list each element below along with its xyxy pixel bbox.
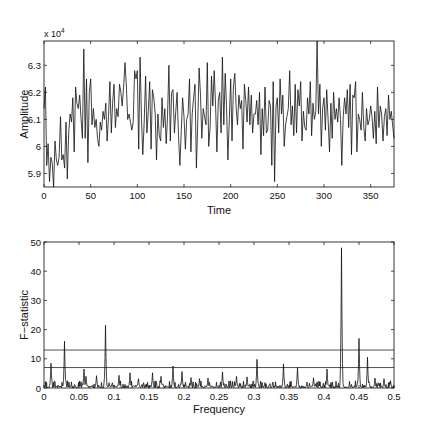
amplitude-line: [44, 41, 394, 187]
x-tick-label: 0.2: [177, 391, 190, 402]
bottom-x-axis-label: Frequency: [193, 403, 245, 415]
bottom-y-axis-label: F−statistic: [18, 290, 30, 340]
x-tick-label: 0: [41, 391, 46, 402]
x-tick-label: 350: [363, 190, 379, 201]
threshold-lines: [44, 350, 394, 368]
x-tick-label: 150: [176, 190, 192, 201]
x-tick-label: 0.1: [107, 391, 120, 402]
x-tick-label: 50: [85, 190, 96, 201]
amplitude-series: [44, 41, 394, 187]
x-tick-label: 0: [41, 190, 46, 201]
x-tick-label: 0.15: [140, 391, 159, 402]
f-statistic-line: [44, 248, 394, 388]
x-tick-label: 0.3: [247, 391, 260, 402]
y-tick-label: 6.3: [28, 60, 41, 71]
x-tick-label: 100: [129, 190, 145, 201]
x-tick-label: 0.05: [70, 391, 89, 402]
y-tick-label: 5.9: [28, 168, 41, 179]
y-tick-label: 10: [30, 353, 41, 364]
y-tick-label: 50: [30, 237, 41, 248]
chart-canvas: 0501001502002503003505.966.16.26.3 x 104…: [0, 0, 421, 428]
x-tick-label: 0.35: [280, 391, 299, 402]
time-series-plot: 0501001502002503003505.966.16.26.3 x 104…: [18, 27, 394, 216]
x-tick-label: 0.5: [387, 391, 400, 402]
x-tick-label: 0.25: [210, 391, 229, 402]
y-tick-label: 40: [30, 266, 41, 277]
x-tick-label: 250: [269, 190, 285, 201]
x-tick-label: 200: [223, 190, 239, 201]
f-statistic-series: [44, 248, 394, 388]
y-tick-label: 6: [36, 141, 41, 152]
y-tick-label: 0: [36, 383, 41, 394]
x-tick-label: 0.4: [317, 391, 330, 402]
y-tick-label: 30: [30, 295, 41, 306]
f-statistic-plot: 00.050.10.150.20.250.30.350.40.450.50102…: [18, 237, 401, 416]
y-multiplier-label: x 104: [44, 27, 65, 39]
y-tick-label: 20: [30, 324, 41, 335]
top-y-axis-label: Amplitude: [18, 90, 30, 139]
top-x-axis-label: Time: [207, 204, 231, 216]
x-tick-label: 0.45: [350, 391, 369, 402]
x-tick-label: 300: [316, 190, 332, 201]
